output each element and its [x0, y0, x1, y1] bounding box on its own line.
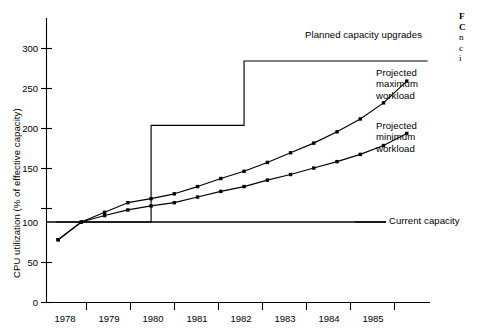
y-tick-label: 150 — [22, 163, 38, 174]
x-tick-label: 1978 — [54, 313, 75, 324]
data-point-marker — [149, 197, 152, 200]
annotation-projected-minimum-workload: Projected minimum workload — [376, 120, 417, 154]
y-tick-label: 0 — [33, 297, 38, 308]
projected-minimum-workload-markers — [56, 132, 408, 242]
data-point-marker — [103, 211, 106, 214]
data-point-marker — [359, 117, 362, 120]
data-point-marker — [266, 161, 269, 164]
x-tick-label: 1985 — [362, 313, 383, 324]
caption-line: F — [459, 11, 478, 22]
chart-plot-area: 300 250 200 150 100 50 0 1978 1979 1980 … — [0, 0, 478, 332]
data-point-marker — [312, 141, 315, 144]
y-tick-label: 250 — [22, 83, 38, 94]
y-axis-tick-labels: 300 250 200 150 100 50 0 — [22, 43, 38, 308]
x-tick-label: 1984 — [318, 313, 339, 324]
y-tick-label: 100 — [22, 217, 38, 228]
data-point-marker — [173, 192, 176, 195]
annotation-planned-capacity-upgrades: Planned capacity upgrades — [305, 29, 422, 40]
data-point-marker — [56, 238, 59, 241]
y-axis-title: CPU utilization (% of effective capacity… — [12, 108, 22, 278]
projected-minimum-workload-line — [58, 133, 407, 239]
annotation-line: workload — [376, 90, 418, 101]
data-point-marker — [126, 201, 129, 204]
data-point-marker — [242, 170, 245, 173]
data-point-marker — [149, 204, 152, 207]
y-tick-label: 200 — [22, 123, 38, 134]
data-point-marker — [219, 190, 222, 193]
x-tick-label: 1979 — [98, 313, 119, 324]
figure-caption-fragment: F C n c i — [459, 11, 478, 64]
data-point-marker — [196, 185, 199, 188]
data-point-marker — [359, 153, 362, 156]
projected-maximum-workload-line — [58, 81, 407, 240]
caption-line: C — [459, 22, 478, 33]
planned-capacity-step-line — [56, 61, 428, 222]
data-point-marker — [80, 220, 83, 223]
caption-line: n — [459, 32, 478, 43]
caption-line: c — [459, 43, 478, 54]
annotation-line: Projected — [376, 120, 417, 131]
x-tick-label: 1983 — [274, 313, 295, 324]
annotation-line: Projected — [376, 67, 418, 78]
annotation-current-capacity: Current capacity — [389, 215, 460, 226]
annotation-line: maximum — [376, 78, 418, 89]
data-point-marker — [266, 178, 269, 181]
x-tick-label: 1980 — [142, 313, 163, 324]
data-point-marker — [335, 130, 338, 133]
y-tick-label: 300 — [22, 43, 38, 54]
data-point-marker — [219, 177, 222, 180]
annotation-line: workload — [376, 143, 417, 154]
data-point-marker — [103, 214, 106, 217]
data-point-marker — [289, 173, 292, 176]
x-axis-ticks — [87, 303, 395, 311]
x-tick-label: 1981 — [186, 313, 207, 324]
y-tick-label: 50 — [27, 257, 38, 268]
caption-line: i — [459, 53, 478, 64]
annotation-line: minimum — [376, 131, 417, 142]
chart-figure: 300 250 200 150 100 50 0 1978 1979 1980 … — [0, 0, 478, 332]
annotation-projected-maximum-workload: Projected maximum workload — [376, 67, 418, 101]
data-point-marker — [196, 195, 199, 198]
data-point-marker — [382, 101, 385, 104]
x-tick-label: 1982 — [230, 313, 251, 324]
data-point-marker — [126, 208, 129, 211]
data-point-marker — [173, 201, 176, 204]
projected-maximum-workload-markers — [56, 79, 408, 241]
data-point-marker — [289, 151, 292, 154]
data-point-marker — [242, 185, 245, 188]
data-point-marker — [312, 166, 315, 169]
data-point-marker — [335, 160, 338, 163]
x-axis-tick-labels: 1978 1979 1980 1981 1982 1983 1984 1985 — [54, 313, 383, 324]
